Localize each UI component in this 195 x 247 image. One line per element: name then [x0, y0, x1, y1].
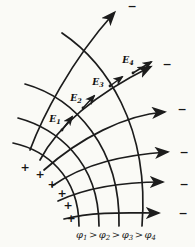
field-vector-label-3: E3	[91, 77, 104, 89]
plus-sign: +	[63, 199, 72, 212]
minus-sign: −	[127, 0, 136, 13]
plus-sign: +	[20, 161, 29, 174]
potential-inequality-caption: φ1>φ2>φ3>φ4	[76, 229, 156, 242]
field-equipotential-figure: ++++++−−−−−−E1E2E3E4 φ1>φ2>φ3>φ4	[0, 0, 195, 247]
field-vector-label-4: E4	[121, 55, 134, 67]
plus-sign: +	[47, 178, 56, 191]
minus-sign: −	[179, 178, 188, 191]
field-point-dot-3	[109, 85, 112, 88]
field-vector-arrow-1	[62, 117, 72, 130]
physics-diagram: ++++++−−−−−−E1E2E3E4 φ1>φ2>φ3>φ4	[0, 0, 195, 247]
plus-sign: +	[66, 212, 75, 225]
field-vector-label-1: E1	[48, 114, 60, 126]
plus-sign: +	[35, 168, 44, 181]
minus-sign: −	[162, 58, 171, 71]
field-vector-arrow-3	[110, 77, 122, 86]
minus-sign: −	[179, 146, 188, 159]
field-point-dot-2	[82, 107, 85, 110]
field-point-dot-4	[132, 72, 135, 75]
field-vector-label-2: E2	[69, 93, 82, 105]
minus-sign: −	[177, 103, 186, 116]
field-point-dot-1	[61, 129, 64, 132]
minus-sign: −	[178, 207, 187, 220]
field-line-4	[52, 152, 167, 186]
